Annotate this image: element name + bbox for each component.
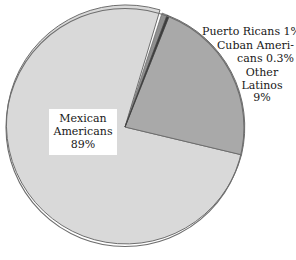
pie-label-mexican-americans-line3: 89% xyxy=(51,138,115,151)
pie-label-other-latinos-line1: Other xyxy=(234,67,290,80)
pie-label-cuban-americans-line1: Cuban Ameri- xyxy=(217,40,294,53)
pie-label-puerto-ricans-line1: Puerto Ricans 1% xyxy=(202,26,296,39)
pie-label-puerto-ricans: Puerto Ricans 1% xyxy=(202,26,296,39)
pie-label-other-latinos-line3: 9% xyxy=(234,92,290,105)
pie-label-mexican-americans-line2: Americans xyxy=(51,125,115,138)
pie-label-cuban-americans: Cuban Ameri- cans 0.3% xyxy=(217,40,294,65)
pie-label-mexican-americans: Mexican Americans 89% xyxy=(49,109,117,155)
pie-chart: Puerto Ricans 1% Cuban Ameri- cans 0.3% … xyxy=(0,0,296,260)
pie-label-mexican-americans-line1: Mexican xyxy=(51,112,115,125)
pie-label-cuban-americans-line2: cans 0.3% xyxy=(217,53,294,66)
pie-label-other-latinos: Other Latinos 9% xyxy=(234,67,290,105)
